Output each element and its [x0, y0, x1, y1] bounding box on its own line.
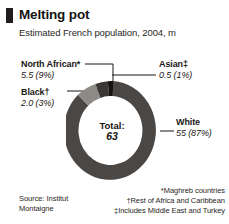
callout-asian: Asian‡ 0.5 (1%)	[159, 59, 192, 81]
callout-white: White 55 (87%)	[176, 117, 212, 139]
footnote-1: *Maghreb countries	[114, 186, 225, 196]
callout-asian-value: 0.5 (1%)	[159, 70, 192, 81]
callout-black-name: Black†	[21, 87, 54, 98]
footnotes: *Maghreb countries †Rest of Africa and C…	[114, 186, 225, 216]
chart-subtitle: Estimated French population, 2004, m	[19, 27, 176, 38]
callout-asian-name: Asian‡	[159, 59, 192, 70]
donut-svg	[66, 81, 158, 180]
callout-black: Black† 2.0 (3%)	[21, 87, 54, 109]
page-title: Melting pot	[19, 7, 89, 22]
callout-north-african-value: 5.5 (9%)	[21, 70, 80, 81]
donut-chart: Total: 63	[66, 81, 158, 180]
melting-pot-chart-figure: Melting pot Estimated French population,…	[0, 0, 229, 224]
callout-north-african: North African* 5.5 (9%)	[21, 59, 80, 81]
callout-black-value: 2.0 (3%)	[21, 98, 54, 109]
square-marker-icon	[6, 8, 13, 23]
footnote-2: †Rest of Africa and Caribbean	[114, 196, 225, 206]
callout-white-value: 55 (87%)	[176, 128, 212, 139]
callout-north-african-name: North African*	[21, 59, 80, 70]
footnote-3: ‡Includes Middle East and Turkey	[114, 206, 225, 216]
callout-white-name: White	[176, 117, 212, 128]
source-text: Source: Institut Montaigne	[19, 194, 89, 214]
